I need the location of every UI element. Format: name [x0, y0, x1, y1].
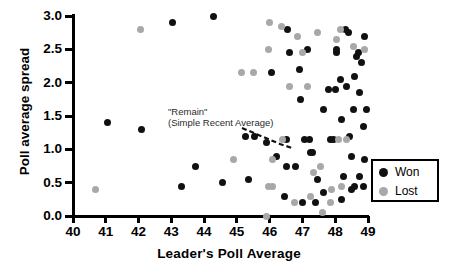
- data-point-won: [332, 86, 339, 93]
- data-point-lost: [291, 199, 298, 206]
- data-point-won: [245, 176, 252, 183]
- x-tick-label: 45: [222, 225, 252, 239]
- data-point-won: [283, 163, 290, 170]
- x-tick-label: 41: [91, 225, 121, 239]
- data-point-won: [356, 173, 363, 180]
- data-point-won: [284, 26, 291, 33]
- x-tick-label: 44: [189, 225, 219, 239]
- data-point-lost: [337, 26, 344, 33]
- y-tick: [65, 115, 72, 118]
- data-point-won: [363, 106, 370, 113]
- data-point-lost: [343, 136, 350, 143]
- data-point-won: [286, 49, 293, 56]
- annotation-line-2: (Simple Recent Average): [168, 117, 273, 128]
- data-point-won: [314, 176, 321, 183]
- data-point-lost: [250, 69, 257, 76]
- data-point-lost: [137, 26, 144, 33]
- data-point-won: [178, 183, 185, 190]
- data-point-lost: [278, 23, 285, 30]
- data-point-lost: [269, 183, 276, 190]
- x-axis-title: Leader's Poll Average: [0, 246, 458, 261]
- data-point-won: [361, 156, 368, 163]
- chart-legend: Won Lost: [371, 159, 439, 202]
- y-tick: [65, 48, 72, 51]
- annotation-line-1: "Remain": [168, 106, 207, 117]
- x-tick: [367, 216, 370, 223]
- x-tick: [72, 216, 75, 223]
- data-point-lost: [350, 43, 357, 50]
- data-point-won: [351, 183, 358, 190]
- legend-item-lost[interactable]: Lost: [379, 183, 418, 199]
- data-point-won: [192, 163, 199, 170]
- data-point-lost: [265, 46, 272, 53]
- data-point-won: [343, 83, 350, 90]
- data-point-won: [325, 86, 332, 93]
- x-tick: [203, 216, 206, 223]
- data-point-won: [360, 123, 367, 130]
- data-point-won: [340, 173, 347, 180]
- plot-area: [73, 16, 368, 216]
- data-point-lost: [335, 136, 342, 143]
- x-tick: [235, 216, 238, 223]
- data-point-won: [268, 69, 275, 76]
- won-marker-icon: [379, 168, 388, 177]
- x-tick: [170, 216, 173, 223]
- data-point-won: [251, 133, 258, 140]
- data-point-won: [292, 163, 299, 170]
- annotation-arrow: [240, 126, 310, 154]
- data-point-won: [348, 153, 355, 160]
- data-point-lost: [230, 156, 237, 163]
- x-tick-label: 40: [58, 225, 88, 239]
- x-tick: [137, 216, 140, 223]
- data-point-won: [104, 119, 111, 126]
- data-point-lost: [263, 213, 270, 220]
- x-tick-label: 42: [124, 225, 154, 239]
- data-point-won: [337, 76, 344, 83]
- lost-marker-icon: [379, 187, 388, 196]
- data-point-lost: [361, 46, 368, 53]
- legend-item-won[interactable]: Won: [379, 164, 419, 180]
- x-tick-label: 43: [156, 225, 186, 239]
- data-point-won: [360, 183, 367, 190]
- y-axis-title: Poll average spread: [17, 2, 32, 222]
- data-point-won: [210, 13, 217, 20]
- x-tick-label: 48: [320, 225, 350, 239]
- data-point-won: [281, 193, 288, 200]
- data-point-lost: [317, 163, 324, 170]
- data-point-lost: [307, 193, 314, 200]
- x-tick-label: 49: [353, 225, 383, 239]
- data-point-won: [242, 133, 249, 140]
- data-point-won: [361, 33, 368, 40]
- data-point-won: [263, 139, 270, 146]
- data-point-won: [219, 179, 226, 186]
- x-tick-label: 46: [255, 225, 285, 239]
- x-tick: [104, 216, 107, 223]
- y-tick: [65, 81, 72, 84]
- data-point-lost: [286, 83, 293, 90]
- data-point-lost: [304, 83, 311, 90]
- x-tick: [301, 216, 304, 223]
- data-point-lost: [319, 209, 326, 216]
- data-point-won: [296, 66, 303, 73]
- y-tick: [65, 148, 72, 151]
- data-point-won: [309, 149, 316, 156]
- data-point-lost: [338, 183, 345, 190]
- legend-label-lost: Lost: [395, 184, 418, 198]
- y-tick: [65, 181, 72, 184]
- x-tick: [334, 216, 337, 223]
- legend-label-won: Won: [395, 165, 419, 179]
- scatter-chart-figure: 0.00.51.01.52.02.53.0 404142434445464748…: [0, 0, 458, 274]
- data-point-won: [351, 73, 358, 80]
- data-point-won: [306, 136, 313, 143]
- data-point-won: [350, 106, 357, 113]
- x-tick-label: 47: [287, 225, 317, 239]
- data-point-lost: [327, 199, 334, 206]
- data-point-lost: [314, 29, 321, 36]
- data-point-lost: [294, 33, 301, 40]
- y-tick: [65, 15, 72, 18]
